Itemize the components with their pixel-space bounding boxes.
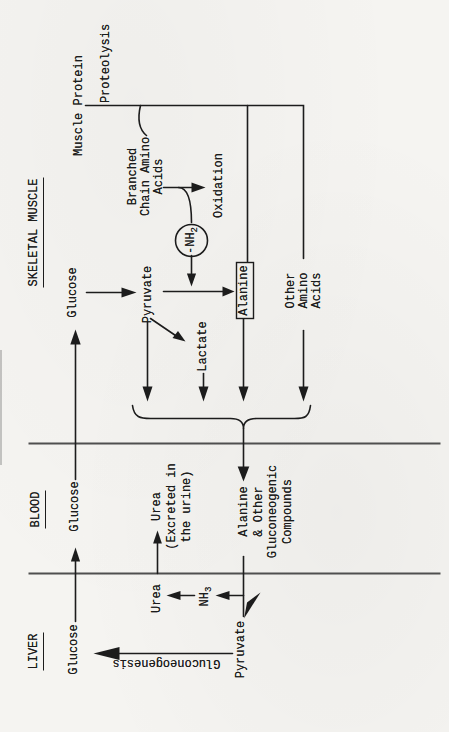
blood-header: BLOOD bbox=[30, 490, 43, 528]
oxidation-label: Oxidation bbox=[213, 153, 226, 218]
arrowhead-oxidation-down bbox=[191, 182, 205, 192]
muscle-protein-label: Muscle Protein bbox=[73, 55, 86, 156]
liver-pyruvate-label: Pyruvate bbox=[235, 620, 248, 678]
muscle-header: SKELETAL MUSCLE bbox=[28, 177, 41, 287]
alanine-box-label: Alanine bbox=[238, 265, 251, 315]
blood-header-text: BLOOD bbox=[29, 490, 46, 528]
nh2-base: -NH bbox=[184, 232, 198, 254]
liver-urea-label: Urea bbox=[151, 584, 164, 613]
collection-brace bbox=[132, 405, 310, 428]
glucose-alanine-cycle-diagram: LIVER BLOOD SKELETAL MUSCLE Glucose Gluc… bbox=[0, 0, 449, 732]
proteolysis-label: Proteolysis bbox=[100, 23, 113, 102]
arrowhead-blood-glucose-right bbox=[70, 329, 80, 344]
nh3-subscript: 3 bbox=[204, 586, 214, 591]
nh2-label: -NH2 bbox=[185, 226, 198, 253]
arrowhead-alanine-to-nh3-up bbox=[215, 590, 229, 599]
arrowhead-pyruvate-alanine-down bbox=[222, 286, 234, 296]
arrowhead-alanine-into-liver bbox=[244, 592, 261, 618]
proteolysis-to-bcaa-curve bbox=[138, 105, 146, 135]
arrowhead-glucose-pyruvate-down bbox=[121, 287, 136, 297]
bcaa-to-nh2-curve bbox=[178, 187, 191, 222]
branched-chain-amino-acids-label: Branched Chain Amino Acids bbox=[127, 136, 166, 215]
scanned-page: LIVER BLOOD SKELETAL MUSCLE Glucose Gluc… bbox=[0, 0, 449, 732]
section-dividers bbox=[28, 443, 440, 573]
arrowhead-brace-lactate bbox=[198, 386, 208, 401]
nh2-subscript: 2 bbox=[190, 226, 200, 231]
arrowhead-brace-other-aa bbox=[298, 386, 308, 401]
muscle-pyruvate-label: Pyruvate bbox=[142, 265, 155, 323]
lactate-label: Lactate bbox=[197, 321, 210, 371]
arrowhead-nh3-to-urea-up bbox=[166, 590, 180, 599]
liver-glucose-label: Glucose bbox=[68, 624, 81, 674]
nh3-label: NH3 bbox=[199, 586, 212, 606]
liver-header-text: LIVER bbox=[27, 632, 44, 670]
muscle-glucose-label: Glucose bbox=[67, 267, 80, 317]
blood-glucose-label: Glucose bbox=[69, 481, 82, 531]
diagram-artwork bbox=[0, 0, 449, 732]
arrowhead-liver-glucose-right bbox=[70, 547, 79, 561]
liver-header: LIVER bbox=[28, 632, 41, 670]
arrowhead-nh2-left bbox=[186, 273, 195, 286]
blood-urea-note: Urea (Excreted in the urine) bbox=[150, 463, 195, 549]
muscle-header-text: SKELETAL MUSCLE bbox=[27, 177, 44, 287]
blood-alanine-note: Alanine & Other Gluconeogenic Compounds bbox=[236, 464, 294, 558]
arrowhead-pyruvate-lactate bbox=[172, 331, 185, 342]
gluconeogenesis-label: Gluconeogenesis bbox=[112, 656, 220, 669]
arrowhead-brace-alanine bbox=[238, 386, 248, 401]
nh3-base: NH bbox=[198, 592, 212, 606]
other-amino-acids-label: Other Amino Acids bbox=[285, 272, 324, 308]
arrowhead-brace-pyruvate bbox=[142, 386, 152, 401]
